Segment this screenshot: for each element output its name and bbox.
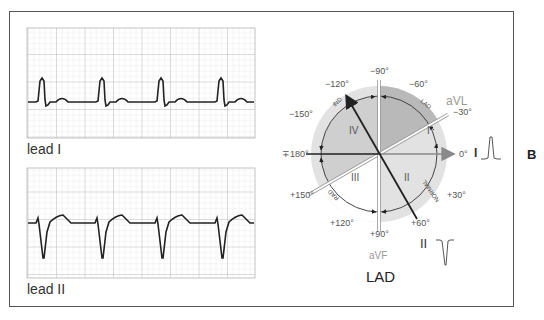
lead-ii-label: lead II bbox=[27, 281, 65, 297]
lead-i-axis-label: I bbox=[474, 146, 477, 160]
lead-avf-label: aVF bbox=[369, 250, 387, 261]
quadrant-iv-label: IV bbox=[349, 125, 358, 136]
angle-p150-label: +150° bbox=[290, 190, 314, 200]
quadrant-ii-label: II bbox=[404, 172, 410, 183]
diagram-caption: LAD bbox=[366, 268, 395, 285]
ecg-strip-lead-ii bbox=[27, 168, 255, 278]
angle-p120-label: +120° bbox=[330, 218, 354, 228]
quadrant-i-label: I bbox=[427, 125, 430, 136]
lead-i-label: lead I bbox=[27, 141, 61, 157]
angle-p60-label: +60° bbox=[411, 218, 430, 228]
angle-m30-label: −30° bbox=[453, 107, 472, 117]
angle-m150-label: −150° bbox=[289, 109, 313, 119]
angle-m120-label: −120° bbox=[325, 79, 349, 89]
lead-avl-label: aVL bbox=[446, 94, 467, 108]
angle-0-label: 0° bbox=[459, 149, 468, 159]
angle-p90-label: +90° bbox=[370, 229, 389, 239]
angle-m90-label: −90° bbox=[370, 66, 389, 76]
figure-canvas bbox=[0, 0, 544, 320]
angle-180-label: ∓180° bbox=[282, 149, 309, 159]
ecg-strip-lead-i bbox=[27, 28, 255, 138]
lead-ii-axis-label: II bbox=[420, 236, 427, 251]
panel-letter: B bbox=[527, 147, 536, 162]
angle-m60-label: −60° bbox=[409, 79, 428, 89]
quadrant-iii-label: III bbox=[351, 172, 359, 183]
angle-p30-label: +30° bbox=[447, 190, 466, 200]
